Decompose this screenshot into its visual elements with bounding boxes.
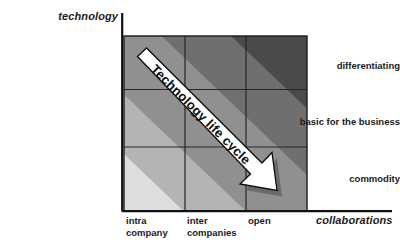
x-tick-label-open: open (248, 215, 271, 227)
x-tick-line1: intra (126, 215, 168, 227)
x-tick-label-intra-company: intra company (126, 215, 168, 238)
x-tick-line1: open (248, 215, 271, 227)
x-tick-line2: company (126, 227, 168, 239)
x-tick-label-inter-companies: inter companies (187, 215, 237, 238)
x-tick-line2: companies (187, 227, 237, 239)
x-tick-line1: inter (187, 215, 237, 227)
x-axis-tick-labels: intra company inter companies open (0, 0, 400, 249)
